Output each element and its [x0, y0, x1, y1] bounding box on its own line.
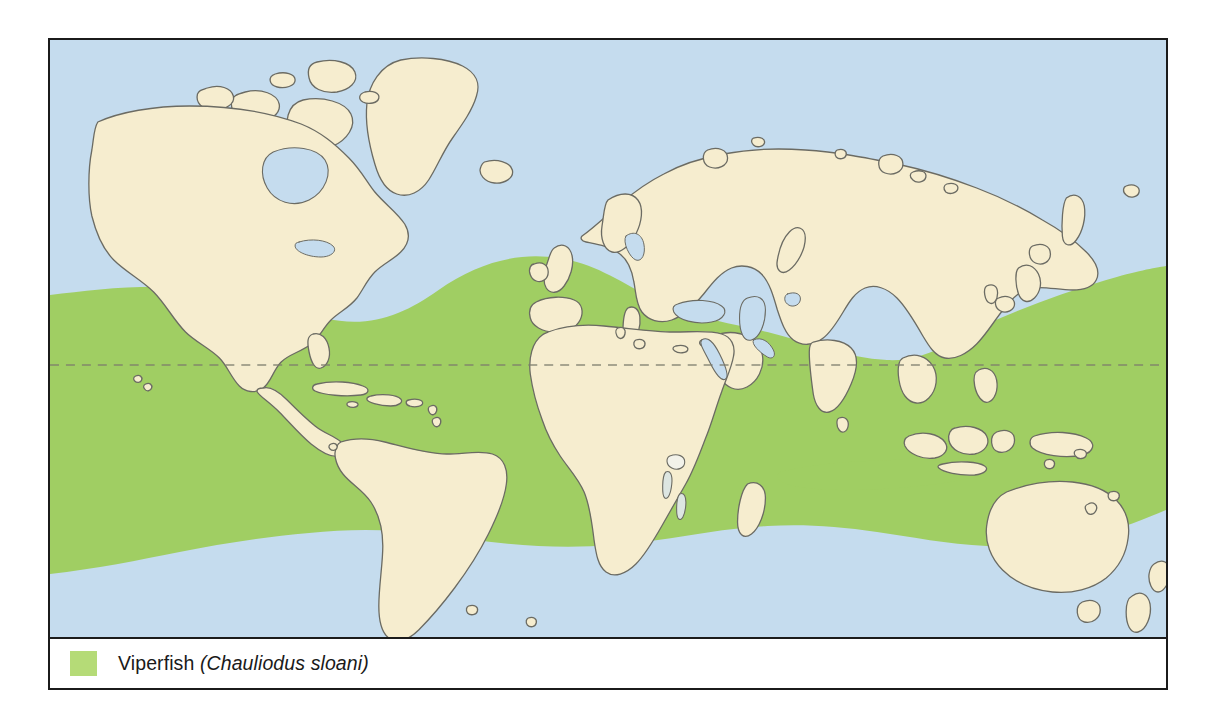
land-galapagos	[329, 443, 337, 450]
land-new-caledonia	[1085, 503, 1096, 514]
land-wrangel	[1124, 185, 1140, 197]
land-falklands	[466, 605, 477, 614]
land-south-georgia	[526, 617, 536, 626]
map-viewport	[50, 40, 1166, 637]
land-fiji	[1108, 491, 1119, 500]
land-arctic-islet-e	[752, 137, 765, 146]
water-aral-sea	[785, 293, 801, 306]
land-sicily	[634, 339, 645, 348]
land-iceland	[480, 160, 513, 183]
land-sulawesi	[992, 430, 1015, 452]
land-sri-lanka	[837, 417, 848, 432]
land-sardinia	[616, 327, 625, 338]
legend-species-label: Viperfish (Chauliodus sloani)	[118, 652, 369, 675]
land-arctic-islet-f	[835, 149, 846, 158]
land-korea	[985, 285, 998, 304]
water-lake-victoria	[667, 455, 685, 469]
land-hokkaido	[1029, 244, 1050, 264]
land-arctic-islet-b	[360, 91, 379, 103]
land-japan-south	[995, 296, 1014, 312]
land-tasmania	[1077, 600, 1100, 622]
land-ireland	[530, 263, 549, 282]
land-lesser-antilles-2	[432, 417, 441, 426]
land-hawaii-b	[144, 383, 152, 390]
land-japan	[1016, 265, 1041, 301]
land-jamaica	[347, 402, 358, 408]
land-ellesmere	[308, 60, 355, 92]
map-legend: Viperfish (Chauliodus sloani)	[50, 637, 1166, 688]
land-crete	[673, 345, 688, 352]
land-arctic-islet-d	[944, 183, 958, 193]
legend-common-name: Viperfish	[118, 652, 194, 674]
legend-color-swatch	[70, 651, 97, 676]
land-solomon	[1074, 449, 1086, 458]
land-arctic-islet-c	[910, 171, 926, 182]
distribution-map-figure: Viperfish (Chauliodus sloani)	[48, 38, 1168, 690]
world-map	[50, 40, 1166, 637]
land-svalbard	[703, 148, 727, 168]
land-hawaii-a	[134, 375, 142, 382]
land-severnaya-zemlya	[879, 154, 903, 174]
land-new-zealand-north	[1149, 561, 1166, 592]
land-arctic-islet-a	[270, 73, 295, 88]
legend-scientific-name: (Chauliodus sloani)	[200, 652, 369, 674]
land-pacific-islet-a	[1044, 459, 1054, 468]
land-puerto-rico	[406, 399, 422, 407]
land-lesser-antilles	[428, 405, 437, 414]
